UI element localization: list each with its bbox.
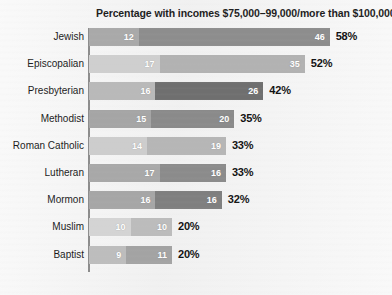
segment-value-label: 16 [211, 168, 221, 178]
bar-segment-income-over-100k: 35 [160, 55, 305, 73]
stacked-bar: 1616 [89, 191, 222, 209]
bar-segment-income-75k-99k: 16 [89, 191, 155, 209]
segment-value-label: 35 [290, 59, 300, 69]
segment-value-label: 15 [136, 114, 146, 124]
segment-value-label: 12 [124, 32, 134, 42]
bar-row: Jewish124658% [0, 27, 392, 53]
bar-segment-income-75k-99k: 10 [89, 218, 131, 236]
segment-value-label: 20 [219, 114, 229, 124]
bar-row: Baptist91120% [0, 245, 392, 271]
row-total-label: 33% [232, 139, 253, 152]
bar-segment-income-over-100k: 26 [155, 82, 263, 100]
chart-figure: Percentage with incomes $75,000–99,000/m… [0, 0, 392, 295]
segment-value-label: 17 [145, 59, 155, 69]
row-total-label: 35% [240, 112, 261, 125]
bar-row: Mormon161632% [0, 190, 392, 216]
stacked-bar: 1626 [89, 82, 263, 100]
stacked-bar: 1246 [89, 28, 330, 46]
row-total-label: 52% [311, 57, 332, 70]
category-label: Muslim [0, 221, 84, 233]
bar-segment-income-over-100k: 16 [160, 164, 226, 182]
row-total-label: 20% [178, 220, 199, 233]
segment-value-label: 10 [115, 222, 125, 232]
category-label: Lutheran [0, 167, 84, 179]
bar-row: Muslim101020% [0, 217, 392, 243]
category-label: Episcopalian [0, 58, 84, 70]
segment-value-label: 16 [207, 195, 217, 205]
chart-title: Percentage with incomes $75,000–99,000/m… [96, 7, 388, 19]
bar-row: Lutheran171633% [0, 163, 392, 189]
stacked-bar: 1010 [89, 218, 172, 236]
segment-value-label: 26 [248, 86, 258, 96]
bar-row: Episcopalian173552% [0, 54, 392, 80]
bar-segment-income-75k-99k: 12 [89, 28, 139, 46]
bar-segment-income-over-100k: 46 [139, 28, 330, 46]
category-label: Mormon [0, 194, 84, 206]
stacked-bar: 911 [89, 246, 172, 264]
segment-value-label: 16 [140, 195, 150, 205]
row-total-label: 33% [232, 166, 253, 179]
row-total-label: 32% [228, 193, 249, 206]
stacked-bar: 1716 [89, 164, 226, 182]
bar-row: Methodist152035% [0, 109, 392, 135]
bar-segment-income-over-100k: 11 [126, 246, 172, 264]
bar-segment-income-75k-99k: 15 [89, 110, 151, 128]
bar-segment-income-over-100k: 10 [131, 218, 173, 236]
category-label: Methodist [0, 113, 84, 125]
bar-segment-income-75k-99k: 16 [89, 82, 155, 100]
bar-row: Roman Catholic141933% [0, 136, 392, 162]
segment-value-label: 46 [315, 32, 325, 42]
segment-value-label: 9 [116, 250, 121, 260]
category-label: Jewish [0, 31, 84, 43]
segment-value-label: 16 [140, 86, 150, 96]
stacked-bar: 1520 [89, 110, 234, 128]
plot-area: Jewish124658%Episcopalian173552%Presbyte… [0, 26, 392, 281]
row-total-label: 20% [178, 248, 199, 261]
segment-value-label: 10 [157, 222, 167, 232]
bar-segment-income-over-100k: 16 [155, 191, 221, 209]
bar-segment-income-75k-99k: 17 [89, 164, 160, 182]
bar-segment-income-over-100k: 20 [151, 110, 234, 128]
segment-value-label: 14 [132, 141, 142, 151]
stacked-bar: 1735 [89, 55, 305, 73]
stacked-bar: 1419 [89, 137, 226, 155]
row-total-label: 42% [269, 84, 290, 97]
bar-segment-income-75k-99k: 17 [89, 55, 160, 73]
bar-segment-income-over-100k: 19 [147, 137, 226, 155]
segment-value-label: 19 [211, 141, 221, 151]
row-total-label: 58% [336, 30, 357, 43]
segment-value-label: 11 [157, 250, 167, 260]
bar-row: Presbyterian162642% [0, 81, 392, 107]
bar-segment-income-75k-99k: 9 [89, 246, 126, 264]
category-label: Presbyterian [0, 85, 84, 97]
bar-segment-income-75k-99k: 14 [89, 137, 147, 155]
category-label: Roman Catholic [0, 140, 84, 152]
category-label: Baptist [0, 249, 84, 261]
segment-value-label: 17 [145, 168, 155, 178]
